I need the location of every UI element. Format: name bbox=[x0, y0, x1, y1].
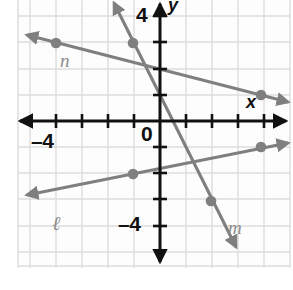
line-label-l: ℓ bbox=[52, 212, 60, 235]
y-tick-label-4: 4 bbox=[136, 3, 147, 27]
line-label-m: m bbox=[228, 217, 242, 239]
figure-root: y x 4 –4 –4 0 n m ℓ bbox=[0, 0, 293, 290]
point-m-2 bbox=[206, 196, 217, 207]
line-label-n: n bbox=[60, 50, 70, 72]
point-m-1 bbox=[128, 38, 139, 49]
point-n-2 bbox=[256, 90, 267, 101]
y-axis-label: y bbox=[168, 0, 178, 16]
origin-label: 0 bbox=[141, 122, 152, 146]
y-tick-label-neg4: –4 bbox=[118, 212, 140, 236]
point-n-1 bbox=[51, 38, 62, 49]
x-tick-label-neg4: –4 bbox=[31, 129, 53, 153]
x-axis-label: x bbox=[246, 92, 256, 113]
point-l-2 bbox=[256, 142, 267, 153]
point-l-1 bbox=[128, 169, 139, 180]
